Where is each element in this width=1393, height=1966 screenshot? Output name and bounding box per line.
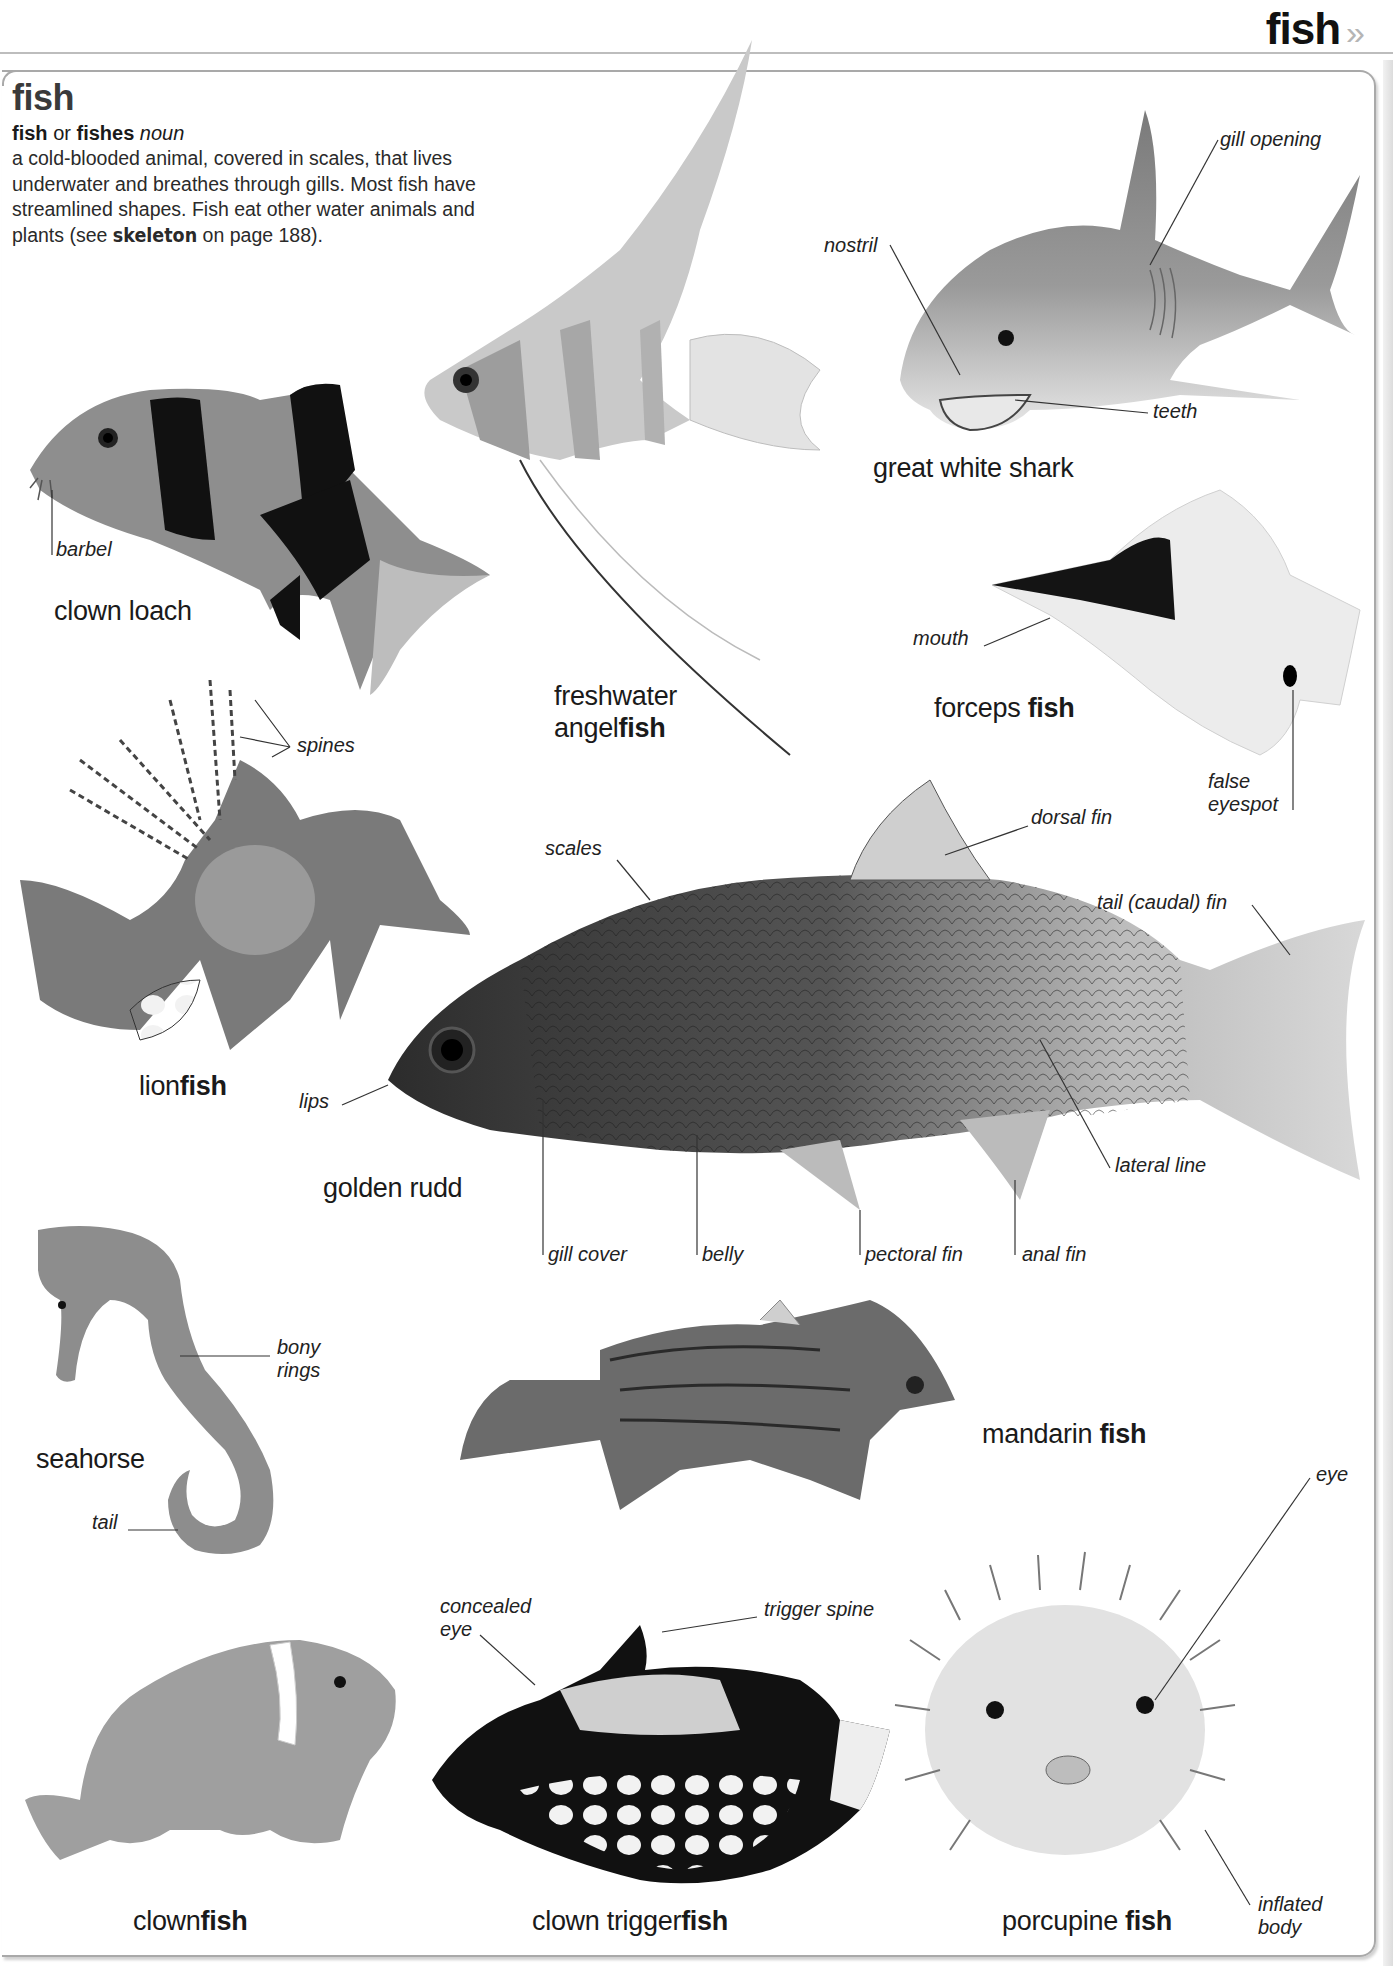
part-of-speech: noun <box>140 122 185 144</box>
caption-clown-loach: clown loach <box>54 595 192 627</box>
label-lips: lips <box>299 1090 329 1112</box>
caption-bold: fish <box>1125 1906 1172 1936</box>
caption-great-white-shark: great white shark <box>873 452 1074 484</box>
caption-clown-triggerfish: clown triggerfish <box>532 1905 728 1937</box>
running-head-word: fish <box>1266 4 1340 54</box>
caption-plain: clown trigger <box>532 1906 681 1936</box>
label-tail-caudal-fin: tail (caudal) fin <box>1097 891 1227 913</box>
label-inflated: inflated <box>1258 1893 1323 1915</box>
caption-bold: fish <box>619 713 666 743</box>
label-eyespot: eyespot <box>1208 793 1278 815</box>
caption-clownfish: clownfish <box>133 1905 247 1937</box>
caption-porcupine-fish: porcupine fish <box>1002 1905 1172 1937</box>
label-teeth: teeth <box>1153 400 1197 422</box>
label-spines: spines <box>297 734 355 756</box>
chevron-right-icon: » <box>1346 13 1359 52</box>
label-dorsal-fin: dorsal fin <box>1031 806 1112 828</box>
caption-bold: fish <box>201 1906 248 1936</box>
definition: a cold-blooded animal, covered in scales… <box>12 146 482 248</box>
caption-lionfish: lionfish <box>139 1070 227 1102</box>
label-scales: scales <box>545 837 602 859</box>
label-pectoral-fin: pectoral fin <box>865 1243 963 1265</box>
label-gill-cover: gill cover <box>548 1243 627 1265</box>
label-nostril: nostril <box>824 234 877 256</box>
caption-plain: mandarin <box>982 1419 1099 1449</box>
label-bony: bony <box>277 1336 320 1358</box>
label-anal-fin: anal fin <box>1022 1243 1087 1265</box>
label-tail: tail <box>92 1511 118 1533</box>
caption-plain: angel <box>554 713 619 743</box>
dictionary-entry: fish fish or fishes noun a cold-blooded … <box>12 78 482 248</box>
cross-reference-link[interactable]: skeleton <box>113 224 197 247</box>
forms-connector: or <box>53 122 71 144</box>
label-gill-opening: gill opening <box>1220 128 1321 150</box>
caption-bold: fish <box>1028 693 1075 723</box>
caption-freshwater-angelfish: freshwater angelfish <box>554 680 677 744</box>
caption-plain: lion <box>139 1071 180 1101</box>
caption-line-2: angelfish <box>554 712 677 744</box>
caption-plain: forceps <box>934 693 1028 723</box>
caption-bold: fish <box>1099 1419 1146 1449</box>
label-trigger-spine: trigger spine <box>764 1598 874 1620</box>
caption-golden-rudd: golden rudd <box>323 1172 462 1204</box>
caption-line-1: freshwater <box>554 680 677 712</box>
label-rings: rings <box>277 1359 320 1381</box>
label-mouth: mouth <box>913 627 969 649</box>
see-suffix: on page 188). <box>203 224 323 246</box>
caption-seahorse: seahorse <box>36 1443 145 1475</box>
header-divider <box>0 52 1393 54</box>
caption-mandarin-fish: mandarin fish <box>982 1418 1146 1450</box>
page-edge <box>1383 60 1393 1966</box>
headword: fish <box>12 78 482 118</box>
label-belly: belly <box>702 1243 743 1265</box>
running-head: fish » <box>1266 4 1359 54</box>
label-false: false <box>1208 770 1250 792</box>
label-concealed: concealed <box>440 1595 531 1617</box>
caption-forceps-fish: forceps fish <box>934 692 1074 724</box>
caption-bold: fish <box>681 1906 728 1936</box>
word-forms: fish or fishes noun <box>12 120 482 146</box>
label-barbel: barbel <box>56 538 112 560</box>
content-frame <box>2 70 1376 1957</box>
label-body: body <box>1258 1916 1301 1938</box>
caption-bold: fish <box>180 1071 227 1101</box>
caption-plain: porcupine <box>1002 1906 1125 1936</box>
singular-form: fish <box>12 122 48 144</box>
label-lateral-line: lateral line <box>1115 1154 1206 1176</box>
caption-plain: clown <box>133 1906 201 1936</box>
plural-form: fishes <box>76 122 134 144</box>
label-eye: eye <box>1316 1463 1348 1485</box>
see-prefix: (see <box>69 224 107 246</box>
label-concealed-eye: eye <box>440 1618 472 1640</box>
